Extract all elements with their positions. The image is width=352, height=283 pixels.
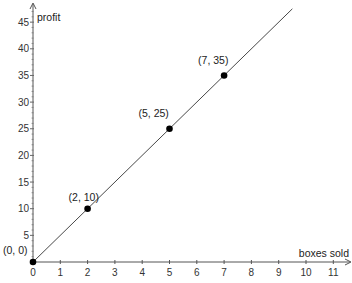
data-point-label: (0, 0) <box>3 244 28 256</box>
y-axis: 51015202530354045 <box>18 3 36 262</box>
x-tick-label: 0 <box>30 267 36 278</box>
profit-line <box>33 9 292 262</box>
y-tick-label: 15 <box>18 177 30 188</box>
profit-chart: 01234567891011 51015202530354045 (0, 0)(… <box>0 0 352 283</box>
x-tick-label: 5 <box>167 267 173 278</box>
y-tick-label: 5 <box>23 230 29 241</box>
y-tick-label: 30 <box>18 97 30 108</box>
y-tick-label: 10 <box>18 203 30 214</box>
x-axis: 01234567891011 <box>30 259 351 278</box>
data-point <box>30 259 37 266</box>
x-tick-label: 9 <box>276 267 282 278</box>
x-tick-label: 8 <box>249 267 255 278</box>
y-tick-label: 40 <box>18 43 30 54</box>
data-point <box>221 72 228 79</box>
x-tick-label: 1 <box>58 267 64 278</box>
x-tick-label: 2 <box>85 267 91 278</box>
x-tick-label: 4 <box>139 267 145 278</box>
y-axis-label: profit <box>37 11 60 23</box>
y-tick-label: 25 <box>18 123 30 134</box>
data-point <box>84 205 91 212</box>
x-tick-label: 10 <box>300 267 312 278</box>
data-point-label: (5, 25) <box>139 107 169 119</box>
x-tick-label: 6 <box>194 267 200 278</box>
data-points: (0, 0)(2, 10)(5, 25)(7, 35) <box>3 54 228 265</box>
y-tick-label: 20 <box>18 150 30 161</box>
data-point-label: (7, 35) <box>198 54 228 66</box>
trend-line <box>33 9 292 262</box>
y-tick-label: 35 <box>18 70 30 81</box>
x-tick-label: 7 <box>221 267 227 278</box>
x-tick-label: 11 <box>328 267 339 278</box>
data-point <box>166 125 173 132</box>
x-axis-label: boxes sold <box>299 247 349 259</box>
y-tick-label: 45 <box>18 17 30 28</box>
x-tick-label: 3 <box>112 267 118 278</box>
data-point-label: (2, 10) <box>69 191 99 203</box>
